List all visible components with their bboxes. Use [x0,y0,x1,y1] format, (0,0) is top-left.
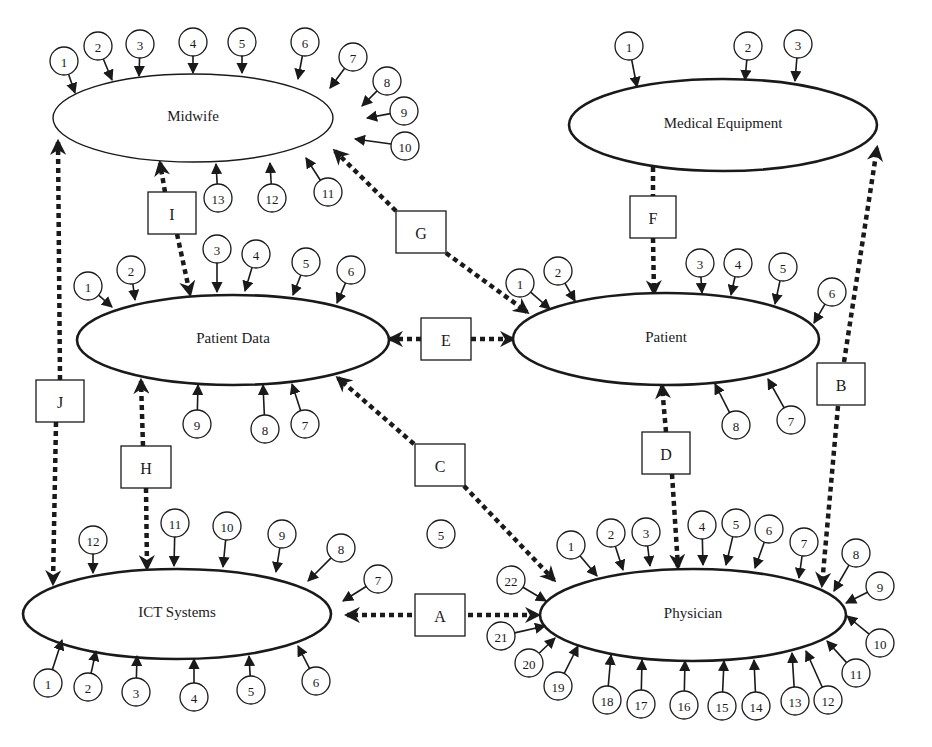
relation-link-f [653,238,654,293]
factor-arrow [847,616,869,634]
entity-physician: Physician [540,569,846,661]
factor-number: 5 [438,528,445,543]
factor-number: 8 [338,542,345,557]
relation-link-i [160,163,165,192]
factor-arrow [731,277,735,295]
factor-number: 4 [190,36,197,51]
relation-link-j [53,422,56,583]
factor-node: 2 [544,257,575,301]
factor-arrow [139,58,140,76]
factor-arrow [99,295,112,307]
factor-arrow [701,277,702,293]
factor-node: 2 [734,32,762,80]
factor-arrow [608,655,611,686]
factor-number: 21 [495,630,508,645]
entity-medical-equipment: Medical Equipment [569,79,877,171]
factor-number: 2 [555,265,562,280]
factor-node: 18 [593,655,621,714]
factor-arrow [834,565,849,591]
factor-node: 19 [544,646,578,700]
factor-number: 18 [601,694,614,709]
factor-number: 8 [853,547,860,562]
factor-arrow [806,651,822,687]
factor-number: 3 [133,686,140,701]
relation-label: D [660,446,672,463]
relation-box-j: J [36,380,84,422]
relation-box-g: G [396,211,446,253]
entity-label: ICT Systems [138,604,216,620]
factor-number: 12 [822,694,835,709]
factor-number: 5 [733,517,740,532]
factor-number: 4 [735,257,742,272]
relation-label: I [169,206,174,223]
factor-node: 5 [722,509,750,565]
factor-arrow [814,304,825,323]
factor-arrow [337,283,346,303]
factor-arrow [846,592,867,603]
relation-link-b [844,148,877,362]
factor-number: 8 [262,423,269,438]
factor-node: 1 [50,47,78,93]
factor-node: 1 [557,531,597,576]
relation-link-b [822,406,838,585]
factor-node: 5 [237,656,265,704]
factor-arrow [245,267,252,291]
factor-number: 9 [877,580,884,595]
factor-node: 10 [213,512,241,567]
factor-number: 19 [552,680,565,695]
relation-label: G [415,225,427,242]
factor-node: 7 [343,565,392,601]
factor-number: 9 [194,418,201,433]
factor-number: 8 [384,75,391,90]
factor-node: 9 [183,385,211,438]
factor-node: 4 [180,659,208,711]
factor-arrow [702,539,703,565]
factor-number: 3 [697,257,704,272]
factor-arrow [308,558,331,581]
factor-node: 5 [292,248,320,295]
factor-number: 1 [568,539,575,554]
factor-arrow [792,653,794,687]
relation-label: E [441,332,451,349]
factor-arrow [754,660,755,692]
factor-node: 11 [306,158,342,206]
concept-diagram: MidwifeMedical EquipmentPatient DataPati… [0,0,932,747]
factor-number: 6 [313,675,320,690]
factor-number: 4 [191,691,198,706]
factor-arrow [539,638,555,653]
relation-label: A [434,608,446,625]
factor-arrow [270,163,271,184]
factor-node: 1 [615,32,643,87]
factor-node: 8 [308,534,355,581]
factor-number: 20 [523,657,536,672]
factor-node: 12 [806,651,842,714]
factor-arrow [293,275,301,295]
factor-node: 11 [161,509,189,566]
factor-arrow [755,542,764,568]
factor-number: 4 [253,248,260,263]
factor-arrow [531,292,550,309]
relation-box-d: D [642,432,690,474]
factor-number: 7 [375,573,382,588]
factor-arrow [69,74,75,93]
factor-node: 5 [427,520,455,548]
factor-node: 8 [251,385,279,443]
factor-node: 17 [627,660,655,718]
factor-number: 7 [302,418,309,433]
relation-link-h [146,488,147,568]
factor-node: 15 [708,661,736,720]
factor-node: 16 [670,661,698,719]
factor-arrow [136,656,137,678]
factor-node: 5 [769,253,797,304]
factor-number: 6 [302,36,309,51]
factor-arrow [343,586,366,601]
factor-node: 9 [268,520,296,572]
factor-number: 8 [733,419,740,434]
factor-node: 20 [515,638,555,677]
factor-node: 13 [204,164,232,212]
relation-link-d [672,474,678,567]
entity-label: Medical Equipment [664,115,784,131]
factor-arrow [249,656,250,676]
factor-number: 3 [643,526,650,541]
factor-node: 14 [742,660,770,720]
